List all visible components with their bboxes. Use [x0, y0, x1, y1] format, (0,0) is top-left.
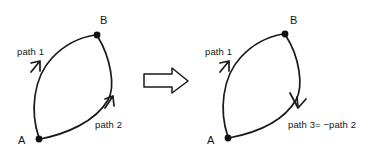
left-node-b-dot	[94, 32, 101, 39]
right-path1-label: path 1	[205, 46, 232, 57]
right-node-b-dot	[282, 31, 289, 38]
diagram-canvas	[0, 0, 368, 155]
right-path3-label: path 3= −path 2	[288, 119, 356, 130]
right-node-a-dot	[225, 135, 232, 142]
left-path2-label: path 2	[95, 119, 122, 130]
implies-arrow-group	[144, 68, 188, 93]
left-node-a-label: A	[18, 134, 25, 146]
right-node-a-label: A	[207, 134, 214, 146]
left-path1-label: path 1	[17, 46, 44, 57]
left-node-a-dot	[36, 136, 43, 143]
left-path1-arrowhead-icon	[31, 61, 40, 72]
implies-arrow-icon	[144, 68, 188, 93]
right-node-b-label: B	[290, 14, 297, 26]
path-reversal-figure: path 1 path 2 A B path 1 path 3= −path 2…	[0, 0, 368, 155]
left-node-b-label: B	[100, 14, 107, 26]
right-path1-arrowhead-icon	[220, 61, 229, 72]
